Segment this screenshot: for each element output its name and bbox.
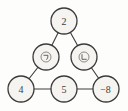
node-middle-right-circle [71, 44, 97, 70]
node-top: 2 [51, 8, 77, 34]
node-middle-left [33, 44, 59, 70]
node-bottom-left: 4 [8, 76, 34, 102]
node-bottom-left-label: 4 [19, 84, 24, 95]
node-middle-right [71, 44, 97, 70]
node-middle-left-circle [33, 44, 59, 70]
node-bottom-center: 5 [51, 76, 77, 102]
triangle-puzzle-svg: 2 4 5 [0, 0, 128, 111]
node-bottom-center-label: 5 [62, 84, 67, 95]
node-bottom-right: −8 [93, 76, 119, 102]
triangle-puzzle-diagram: 2 4 5 [0, 0, 128, 111]
node-top-label: 2 [62, 16, 67, 27]
node-bottom-right-label: −8 [100, 84, 111, 95]
